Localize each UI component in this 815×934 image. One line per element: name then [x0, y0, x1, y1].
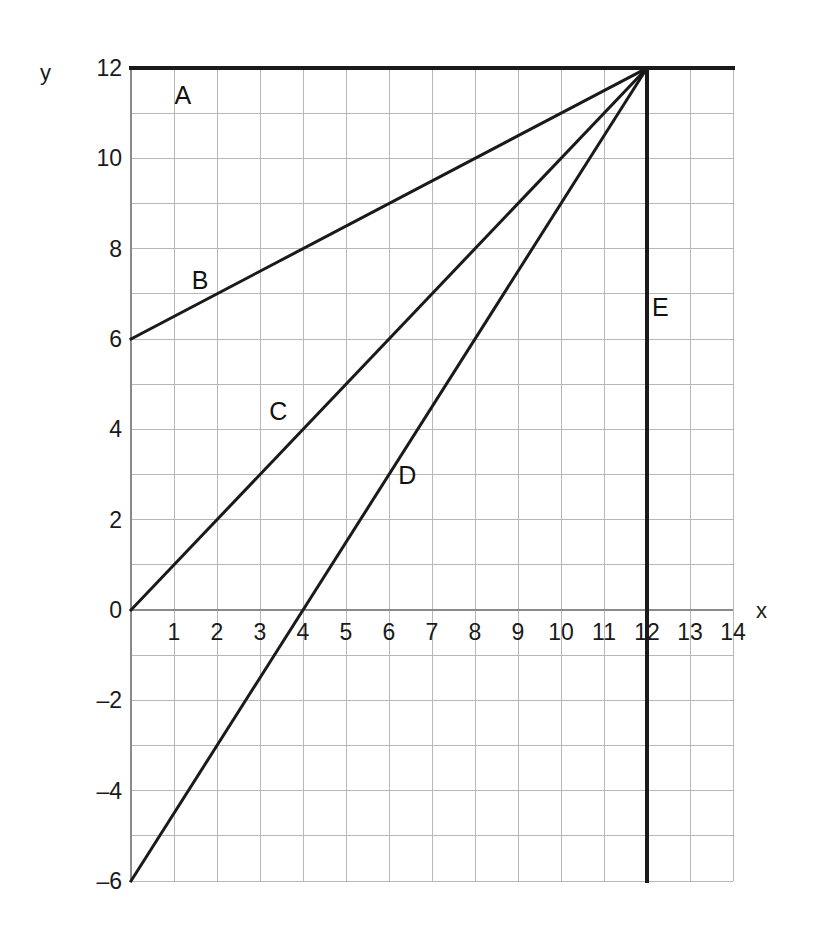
y-tick-label: 0	[60, 599, 122, 622]
y-tick-label: 10	[60, 147, 122, 170]
y-tick-label: 2	[60, 509, 122, 532]
series-label-a: A	[175, 83, 192, 108]
x-tick-label: 14	[708, 621, 758, 644]
y-tick-label: 12	[60, 57, 122, 80]
y-tick-label: –4	[60, 780, 122, 803]
grid-lines	[131, 68, 733, 881]
y-tick-label: –2	[60, 689, 122, 712]
series-label-c: C	[269, 399, 287, 424]
y-tick-label: 4	[60, 418, 122, 441]
y-tick-label: 8	[60, 238, 122, 261]
y-axis-label: y	[40, 62, 51, 84]
chart-figure: y x 121086420–2–4–6 1234567891011121314 …	[0, 0, 815, 934]
y-tick-label: –6	[60, 870, 122, 893]
series-label-e: E	[652, 295, 669, 320]
y-tick-label: 6	[60, 328, 122, 351]
x-axis-label: x	[756, 600, 767, 622]
series-label-b: B	[192, 268, 209, 293]
series-label-d: D	[398, 463, 416, 488]
